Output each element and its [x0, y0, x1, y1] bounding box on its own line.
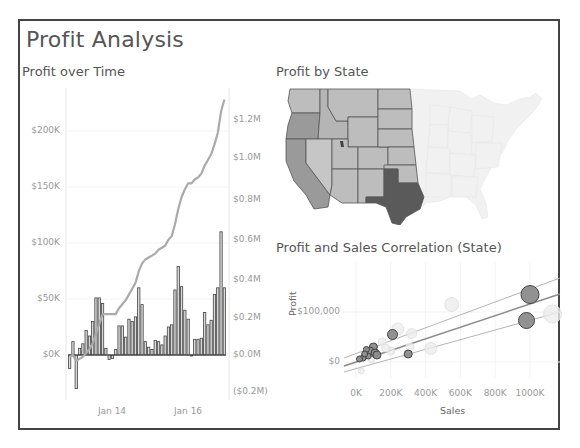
profit-bar[interactable] — [197, 339, 199, 355]
y-tick-right: $1.0M — [233, 152, 261, 162]
sheet-title-profit-by-state: Profit by State — [276, 64, 369, 79]
profit-bar[interactable] — [111, 355, 113, 358]
y-tick-left: $50K — [37, 293, 60, 303]
scatter-x-tick: 200K — [379, 388, 402, 398]
y-tick-right: $0.2M — [233, 312, 261, 322]
western-states — [286, 89, 424, 225]
x-tick: Jan 14 — [98, 406, 126, 416]
scatter-x-tick: 400K — [414, 388, 437, 398]
scatter-x-tick: 800K — [484, 388, 507, 398]
profit-bar[interactable] — [134, 317, 136, 355]
profit-bar[interactable] — [171, 325, 173, 355]
profit-bar[interactable] — [167, 327, 169, 355]
profit-bar[interactable] — [220, 232, 222, 355]
profit-bar[interactable] — [101, 304, 103, 356]
state-montana — [328, 89, 378, 121]
state-oregon — [286, 113, 320, 139]
y-tick-right: $0.6M — [233, 234, 261, 244]
profit-bar[interactable] — [184, 310, 186, 355]
profit-bar[interactable] — [118, 326, 120, 355]
profit-bar[interactable] — [157, 342, 159, 355]
profit-bar[interactable] — [223, 288, 225, 355]
scatter-y-axis-title: Profit — [287, 291, 298, 316]
profit-bar[interactable] — [121, 326, 123, 355]
profit-bar[interactable] — [164, 336, 166, 355]
x-tick: Jan 16 — [174, 406, 202, 416]
y-tick-right: ($0.2M) — [233, 386, 268, 396]
profit-bar[interactable] — [148, 347, 150, 355]
scatter-x-tick: 0K — [350, 388, 362, 398]
profit-bar[interactable] — [144, 342, 146, 355]
state-colorado — [358, 147, 388, 169]
scatter-y-tick: $0 — [329, 356, 340, 366]
state-kansas — [388, 147, 416, 165]
state-nebraska — [378, 129, 414, 147]
y-tick-right: $0.0M — [233, 349, 261, 359]
profit-bar[interactable] — [217, 288, 219, 355]
profit-bar[interactable] — [180, 287, 182, 355]
profit-bar[interactable] — [128, 319, 130, 355]
profit-bar[interactable] — [187, 319, 189, 355]
state-wyoming — [348, 117, 378, 147]
profit-bar[interactable] — [210, 320, 212, 355]
profit-bar[interactable] — [207, 325, 209, 355]
state-arizona — [330, 169, 358, 203]
profit-bar[interactable] — [115, 349, 117, 355]
profit-bar[interactable] — [200, 338, 202, 355]
profit-bar[interactable] — [204, 312, 206, 355]
state-south-dakota — [378, 109, 412, 129]
profit-bar[interactable] — [174, 290, 176, 355]
profit-bar[interactable] — [213, 295, 215, 356]
profit-bar[interactable] — [194, 339, 196, 355]
profit-bar[interactable] — [138, 288, 140, 355]
scatter-x-tick: 1000K — [516, 388, 545, 398]
y-tick-left: $0K — [43, 349, 60, 359]
profit-bar[interactable] — [108, 355, 110, 360]
sheet-title-profit-sales-correlation: Profit and Sales Correlation (State) — [276, 240, 502, 255]
y-tick-right: $0.8M — [233, 194, 261, 204]
profit-bar[interactable] — [72, 342, 74, 355]
profit-bar[interactable] — [141, 305, 143, 355]
scatter-x-axis-title: Sales — [440, 405, 465, 416]
y-tick-left: $100K — [31, 237, 60, 247]
profit-bar[interactable] — [125, 337, 127, 355]
profit-bar[interactable] — [154, 340, 156, 355]
profit-bar[interactable] — [78, 348, 80, 355]
profit-bar[interactable] — [151, 349, 153, 355]
scatter-x-tick: 600K — [449, 388, 472, 398]
profit-by-state-map[interactable] — [280, 85, 560, 225]
y-tick-left: $150K — [31, 181, 60, 191]
profit-bar[interactable] — [131, 321, 133, 355]
y-tick-left: $200K — [31, 125, 60, 135]
profit-bar[interactable] — [177, 267, 179, 356]
profit-bar[interactable] — [95, 298, 97, 355]
scatter-y-tick: $100,000 — [297, 306, 340, 316]
y-tick-right: $0.4M — [233, 274, 261, 284]
profit-bar[interactable] — [105, 348, 107, 355]
profit-bar[interactable] — [161, 345, 163, 355]
state-north-dakota — [378, 89, 412, 109]
profit-bar[interactable] — [82, 344, 84, 355]
y-tick-right: $1.2M — [233, 114, 261, 124]
state-washington — [288, 89, 320, 113]
eastern-states-faded — [412, 89, 542, 219]
